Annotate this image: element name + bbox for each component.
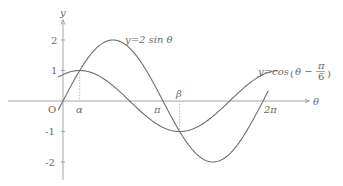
svg-text:): ) [327,68,331,79]
x-tick-label-beta: β [175,88,182,99]
svg-text:6: 6 [318,71,324,82]
x-tick-label-pi: π [153,104,161,115]
svg-text:π: π [317,60,325,71]
y-tick-label-neg1: -1 [45,126,55,137]
svg-text:y=cos: y=cos [257,66,289,77]
svg-text:θ −: θ − [295,66,313,77]
y-axis-label: y [59,7,66,18]
trig-graph: y θ O 2 1 -1 -2 α π β 2π y=2 sin θ y=cos… [0,0,343,186]
theta-axis-label: θ [313,96,319,107]
y-tick-label-1: 1 [51,65,57,76]
svg-text:(: ( [290,68,294,79]
x-tick-label-2pi: 2π [263,104,277,115]
series-label-cos: y=cos ( θ − π 6 ) [257,60,331,82]
y-tick-label-2: 2 [51,35,57,46]
y-tick-label-neg2: -2 [45,157,55,168]
origin-label: O [48,104,56,115]
series-label-2sin: y=2 sin θ [124,34,173,45]
x-tick-label-alpha: α [76,104,83,115]
